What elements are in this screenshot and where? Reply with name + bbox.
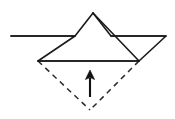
origami-diagram-figure bbox=[0, 0, 175, 119]
diagram-canvas bbox=[0, 0, 175, 119]
